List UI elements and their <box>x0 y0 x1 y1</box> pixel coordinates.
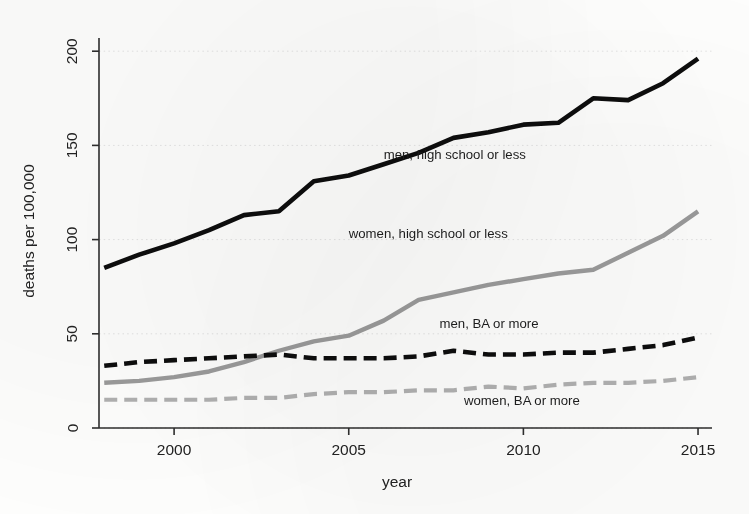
y-tick-label-50: 50 <box>64 325 81 343</box>
y-tick-label-0: 0 <box>64 423 81 432</box>
series-label-1: women, high school or less <box>348 226 508 241</box>
y-axis-title: deaths per 100,000 <box>20 164 37 298</box>
y-tick-label-200: 200 <box>64 38 81 64</box>
series-line-2 <box>104 338 698 366</box>
series-label-3: women, BA or more <box>463 393 580 408</box>
x-tick-label-2000: 2000 <box>157 441 192 458</box>
y-tick-label-100: 100 <box>64 226 81 252</box>
series-line-3 <box>104 377 698 400</box>
mortality-line-chart: 0501001502002000200520102015 men, high s… <box>0 0 749 514</box>
x-tick-label-2010: 2010 <box>506 441 541 458</box>
series-label-2: men, BA or more <box>440 316 539 331</box>
series-label-0: men, high school or less <box>384 147 527 162</box>
x-tick-label-2015: 2015 <box>681 441 715 458</box>
y-tick-label-150: 150 <box>64 132 81 158</box>
x-tick-label-2005: 2005 <box>331 441 365 458</box>
chart-figure: 0501001502002000200520102015 men, high s… <box>0 0 749 514</box>
x-axis-title: year <box>382 473 412 490</box>
